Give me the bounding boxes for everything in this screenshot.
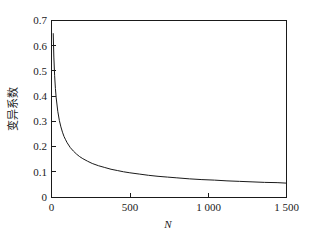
y-tick-label: 0.2 [33, 140, 47, 152]
y-tick-label: 0 [42, 191, 48, 203]
x-axis-title: N [163, 218, 172, 230]
x-tick-label: 1 500 [274, 201, 299, 213]
chart-plot-area: 0 0.1 0.2 0.3 0.4 0.5 0.6 0.7 0 500 1 00… [0, 0, 310, 241]
x-tick-label: 500 [122, 201, 139, 213]
y-tick-label: 0.7 [33, 14, 47, 26]
y-tick-label: 0.5 [33, 65, 47, 77]
chart-figure: 0 0.1 0.2 0.3 0.4 0.5 0.6 0.7 0 500 1 00… [0, 0, 310, 241]
y-tick-label: 0.1 [33, 166, 47, 178]
y-tick-label: 0.4 [33, 90, 47, 102]
x-tick-label: 1 000 [196, 201, 221, 213]
y-tick-label: 0.3 [33, 115, 47, 127]
y-axis-title: 变异系数 [6, 87, 20, 131]
y-tick-label: 0.6 [33, 40, 47, 52]
x-tick-label: 0 [49, 201, 55, 213]
